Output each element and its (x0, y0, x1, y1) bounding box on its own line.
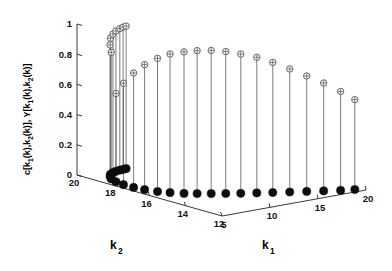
k2-tick-label: 20 (69, 177, 80, 188)
base-marker-dot (166, 189, 174, 197)
z-axis-label: c[k1(k),k2(k)], Y[k1(k),k2(k)] (22, 64, 34, 175)
zlabel-seg-yend: (k)] (22, 64, 32, 78)
k2-axis-label-subscript: 2 (118, 246, 123, 256)
base-marker-dot (180, 189, 188, 197)
k1-tick-label: 15 (315, 202, 326, 213)
z-tick-label: 0.4 (59, 109, 73, 120)
stem-lines-group (110, 26, 355, 194)
k2-axis-label-base: k (110, 238, 117, 252)
zlabel-seg-c: c[k (22, 161, 32, 175)
base-marker-dot (122, 165, 130, 173)
base-marker-dot (303, 187, 311, 195)
k1-axis-label-subscript: 1 (270, 246, 275, 256)
base-marker-dot (351, 185, 359, 193)
z-axis-label-text: c[k1(k),k2(k)], Y[k1(k),k2(k)] (22, 64, 34, 175)
base-marker-dot (141, 186, 149, 194)
k2-tick-label: 18 (105, 187, 116, 198)
base-markers-group (106, 165, 359, 198)
base-marker-dot (207, 189, 215, 197)
stem3-plot-figure: 10.80.60.40.20 2018161412 5101520 k 2 k … (0, 0, 392, 271)
base-marker-dot (153, 187, 161, 195)
z-tick-mark (77, 145, 82, 146)
k1-tick-label: 10 (267, 210, 278, 221)
k2-tick-label: 16 (141, 198, 152, 209)
base-marker-dot (253, 189, 261, 197)
z-tick-mark (77, 54, 82, 55)
plot-canvas: 10.80.60.40.20 2018161412 5101520 k 2 k … (0, 0, 392, 271)
base-marker-dot (119, 181, 127, 189)
k1-axis-label-base: k (262, 238, 269, 252)
base-marker-dot (320, 187, 328, 195)
k2-tick-label: 14 (177, 208, 188, 219)
z-tick-label: 1 (67, 18, 73, 29)
k1-tick-label: 5 (221, 219, 227, 230)
z-tick-label: 0.8 (59, 49, 72, 60)
base-marker-dot (337, 186, 345, 194)
base-marker-dot (222, 189, 230, 197)
base-marker-dot (237, 189, 245, 197)
zlabel-seg-end: (k)], Y[k (22, 102, 32, 136)
k1-tick-label: 20 (363, 193, 374, 204)
base-marker-dot (269, 188, 277, 196)
base-marker-dot (193, 190, 201, 198)
base-marker-dot (286, 188, 294, 196)
z-tick-mark (77, 115, 82, 116)
k2-tick-group: 2018161412 (69, 177, 225, 229)
z-tick-label: 0.2 (59, 139, 72, 150)
base-marker-dot (130, 183, 138, 191)
z-tick-mark (77, 24, 82, 25)
z-tick-group: 10.80.60.40.20 (59, 18, 82, 180)
k1-axis-label: k 1 (262, 238, 275, 256)
k2-axis-label: k 2 (110, 238, 123, 256)
zlabel-seg-ymid: (k),k (22, 80, 32, 100)
k1-tick-mark (269, 203, 270, 207)
k1-tick-mark (365, 186, 366, 190)
z-tick-label: 0.6 (59, 79, 72, 90)
zlabel-seg-mid: (k),k (22, 139, 32, 159)
k1-tick-mark (317, 195, 318, 199)
z-tick-mark (77, 84, 82, 85)
